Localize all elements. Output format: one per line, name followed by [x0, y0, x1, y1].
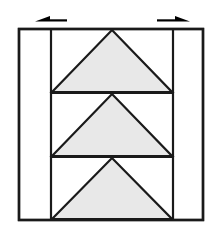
diagram-root [0, 0, 216, 235]
arrow-left-head [35, 16, 50, 22]
diagram-canvas [0, 0, 216, 235]
arrow-left [35, 16, 67, 22]
arrow-right-head [175, 16, 190, 22]
arrow-right [157, 16, 190, 22]
